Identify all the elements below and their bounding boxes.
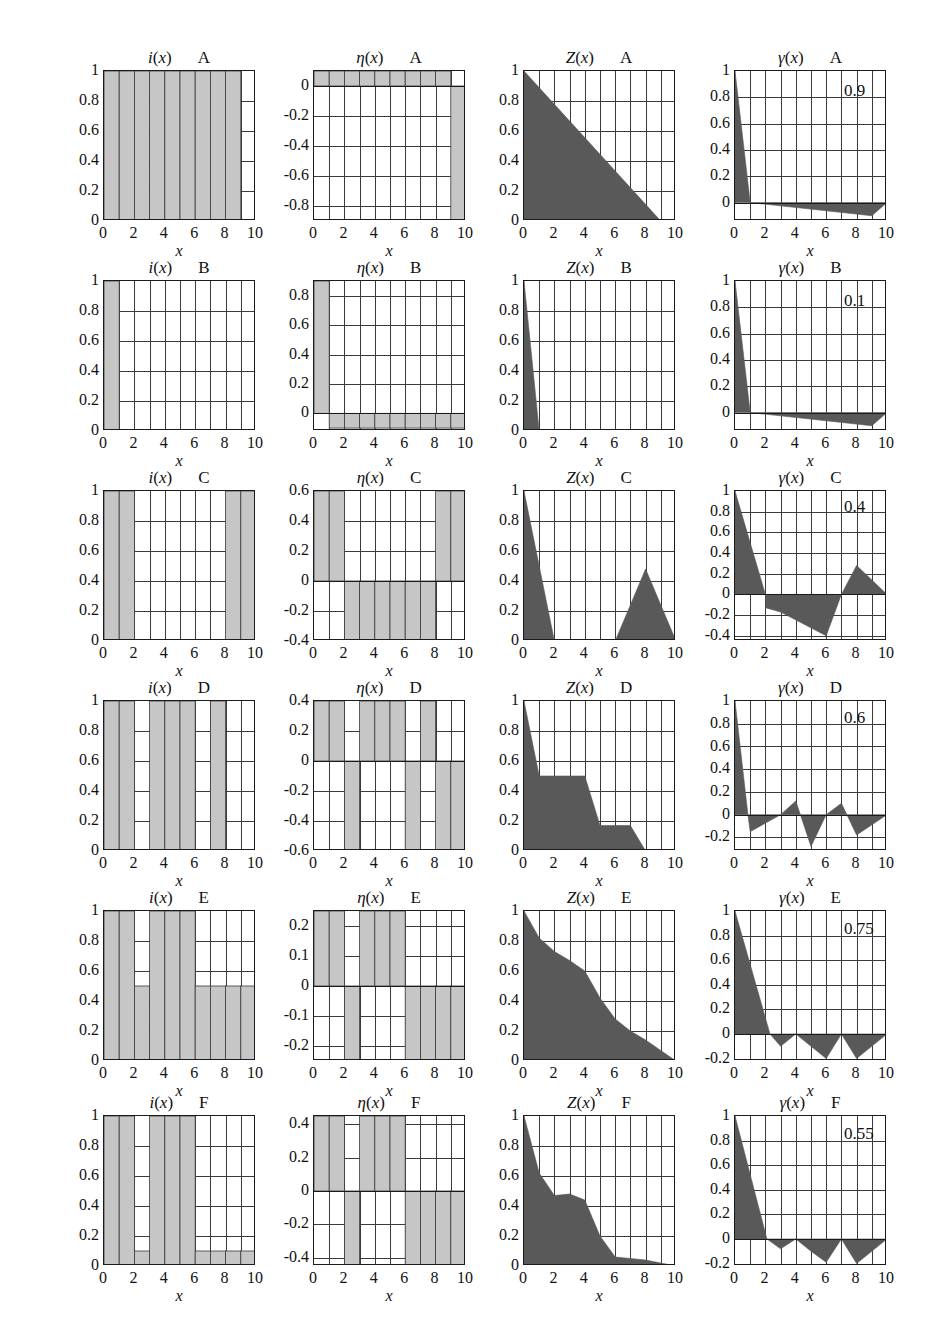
y-tick-label: 0.4 <box>499 1197 519 1213</box>
bar <box>390 911 405 986</box>
series-A-i <box>104 71 255 220</box>
x-axis-label: x <box>175 1287 182 1305</box>
y-tick-label: 0.2 <box>79 392 99 408</box>
y-axis-F-eta: 0.40.20-0.2-0.4 <box>267 1115 309 1265</box>
x-tick-label: 6 <box>400 645 408 661</box>
y-tick-label: 0.2 <box>710 1000 730 1016</box>
gamma-value-annotation: 0.4 <box>844 497 865 517</box>
y-tick-label: 0.2 <box>499 392 519 408</box>
y-tick-label: 1 <box>91 1107 99 1123</box>
y-tick-label: 0.8 <box>710 298 730 314</box>
gamma-value-annotation: 0.9 <box>844 81 865 101</box>
bar <box>390 581 405 640</box>
panel-C-Z: Z(x)C00.20.40.60.810246810x <box>477 468 687 680</box>
x-tick-label: 10 <box>247 225 263 241</box>
bar <box>314 701 329 761</box>
panel-E-Z: Z(x)E00.20.40.60.810246810x <box>477 888 687 1100</box>
y-axis-B-i: 00.20.40.60.81 <box>57 280 99 430</box>
panel-title-C-gamma: γ(x)C <box>734 468 886 488</box>
y-tick-label: 0.6 <box>79 122 99 138</box>
plot-area-D-Z <box>523 700 675 850</box>
x-tick-label: 4 <box>580 1065 588 1081</box>
x-tick-label: 8 <box>221 1065 229 1081</box>
y-axis-A-eta: 0-0.2-0.4-0.6-0.8 <box>267 70 309 220</box>
x-tick-label: 2 <box>339 435 347 451</box>
bar <box>375 701 390 761</box>
y-tick-label: 1 <box>722 482 730 498</box>
bar <box>195 986 210 1060</box>
x-axis-F-gamma: 0246810 <box>734 1270 886 1288</box>
x-tick-label: 0 <box>309 855 317 871</box>
y-tick-label: 0 <box>301 977 309 993</box>
y-axis-D-Z: 00.20.40.60.81 <box>477 700 519 850</box>
panel-A-gamma: γ(x)A0.900.20.40.60.810246810x <box>688 48 898 260</box>
x-tick-label: 10 <box>667 645 683 661</box>
bar <box>104 281 119 430</box>
x-tick-label: 8 <box>221 855 229 871</box>
x-tick-label: 6 <box>610 1065 618 1081</box>
panel-D-i: i(x)D00.20.40.60.810246810x <box>57 678 267 890</box>
y-tick-label: 0.4 <box>79 782 99 798</box>
bar <box>329 413 344 428</box>
bar <box>436 1191 451 1265</box>
bar <box>360 581 375 640</box>
x-tick-label: 4 <box>370 1065 378 1081</box>
y-tick-label: 0.6 <box>289 482 309 498</box>
series-E-Z <box>524 911 675 1060</box>
panel-E-eta: η(x)E0.20.10-0.1-0.20246810x <box>267 888 477 1100</box>
y-tick-label: 0 <box>511 842 519 858</box>
panel-title-B-eta: η(x)B <box>313 258 465 278</box>
bar <box>451 413 465 428</box>
y-tick-label: 0.4 <box>710 760 730 776</box>
panel-title-B-gamma: γ(x)B <box>734 258 886 278</box>
x-tick-label: 4 <box>580 435 588 451</box>
area-series <box>524 491 675 640</box>
area-series <box>524 911 675 1060</box>
x-tick-label: 2 <box>760 855 768 871</box>
x-tick-label: 6 <box>610 225 618 241</box>
bar <box>180 71 195 220</box>
bar <box>360 1116 375 1191</box>
bar <box>329 1116 344 1191</box>
plot-area-F-Z <box>523 1115 675 1265</box>
panel-B-Z: Z(x)B00.20.40.60.810246810x <box>477 258 687 470</box>
y-tick-label: 0.6 <box>710 738 730 754</box>
panel-row-label: D <box>198 678 210 698</box>
y-tick-label: 0 <box>91 422 99 438</box>
x-tick-label: 6 <box>610 435 618 451</box>
bar <box>344 1191 359 1265</box>
y-tick-label: 0.2 <box>79 182 99 198</box>
x-tick-label: 8 <box>221 225 229 241</box>
panel-C-eta: η(x)C0.60.40.20-0.2-0.40246810x <box>267 468 477 680</box>
gamma-value-annotation: 0.1 <box>844 291 865 311</box>
area-series <box>524 281 675 430</box>
panel-title-F-eta: η(x)F <box>313 1093 465 1113</box>
x-tick-label: 4 <box>580 645 588 661</box>
bar <box>119 911 134 1060</box>
panel-row-label: F <box>621 1093 630 1113</box>
gamma-value-annotation: 0.55 <box>844 1124 874 1144</box>
gridline-horizontal <box>735 1059 885 1060</box>
gamma-value-annotation: 0.75 <box>844 919 874 939</box>
y-tick-label: 0.6 <box>79 962 99 978</box>
x-tick-label: 0 <box>99 1270 107 1286</box>
panel-row-label: C <box>410 468 421 488</box>
x-tick-label: 8 <box>641 1065 649 1081</box>
bar <box>375 71 390 86</box>
x-tick-label: 0 <box>730 1270 738 1286</box>
x-tick-label: 10 <box>457 645 473 661</box>
x-tick-label: 0 <box>730 435 738 451</box>
x-tick-label: 0 <box>99 645 107 661</box>
panel-C-gamma: γ(x)C0.410.80.60.40.20-0.2-0.40246810x <box>688 468 898 680</box>
panel-F-Z: Z(x)F00.20.40.60.810246810x <box>477 1093 687 1305</box>
bar <box>375 1116 390 1191</box>
area-series <box>524 1116 675 1265</box>
bar <box>344 581 359 640</box>
x-tick-label: 0 <box>730 645 738 661</box>
panel-F-eta: η(x)F0.40.20-0.2-0.40246810x <box>267 1093 477 1305</box>
x-tick-label: 8 <box>641 435 649 451</box>
y-tick-label: 0.6 <box>710 115 730 131</box>
y-tick-label: 0.8 <box>710 1132 730 1148</box>
x-tick-label: 0 <box>519 855 527 871</box>
y-tick-label: 0.6 <box>289 316 309 332</box>
